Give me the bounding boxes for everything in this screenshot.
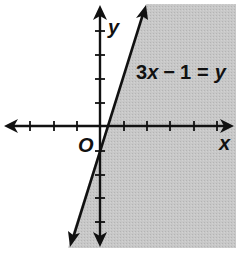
equation-equals: = [197, 61, 209, 83]
equation-minus: − [163, 61, 175, 83]
equation-coef: 3 [136, 61, 147, 83]
equation-y: y [214, 61, 227, 83]
x-axis-label: x [218, 132, 231, 154]
inequality-graph: y x O 3x−1=y [0, 0, 236, 264]
y-axis-label: y [107, 16, 120, 38]
equation-x: x [146, 61, 159, 83]
origin-label: O [78, 134, 94, 156]
equation-const: 1 [180, 61, 191, 83]
